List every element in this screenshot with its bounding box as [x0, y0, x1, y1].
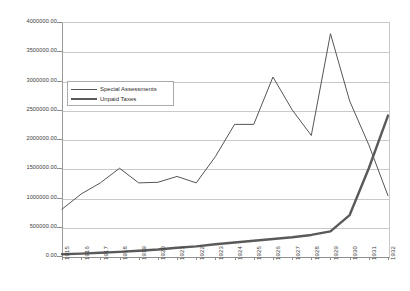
x-axis-tick-label: 1925 [256, 246, 262, 260]
x-axis-tick [292, 257, 293, 260]
series-line-unpaid-taxes [62, 116, 388, 255]
x-axis-tick [369, 257, 370, 260]
y-axis-tick-label: 4000000.00 [1, 19, 57, 25]
y-axis-tick-label: 2500000.00 [1, 107, 57, 113]
y-axis-tick [57, 51, 62, 52]
x-axis-tick-label: 1924 [237, 246, 243, 260]
y-axis-tick-label: 500000.00 [1, 224, 57, 230]
x-axis-tick-label: 1932 [390, 246, 396, 260]
x-axis-tick-label: 1918 [122, 246, 128, 260]
x-axis-tick-label: 1927 [295, 246, 301, 260]
x-axis-tick-label: 1931 [371, 246, 377, 260]
y-axis-tick [57, 227, 62, 228]
y-axis-tick-label: 3000000.00 [1, 78, 57, 84]
x-axis-tick-label: 1919 [141, 246, 147, 260]
y-axis-tick [57, 81, 62, 82]
series-line-special-assessments [62, 34, 388, 210]
y-axis-tick-label: 1000000.00 [1, 195, 57, 201]
x-axis-tick-label: 1921 [179, 246, 185, 260]
x-axis-tick [100, 257, 101, 260]
x-axis-tick [388, 257, 389, 260]
y-axis-tick [57, 139, 62, 140]
y-axis-tick [57, 22, 62, 23]
x-axis-tick-label: 1916 [84, 246, 90, 260]
x-axis-tick-label: 1930 [352, 246, 358, 260]
y-axis-tick-label: 1500000.00 [1, 165, 57, 171]
x-axis-tick [62, 257, 63, 260]
x-axis-tick [330, 257, 331, 260]
chart-container: Special Assessments Unpaid Taxes 4000000… [0, 0, 410, 291]
y-axis-tick [57, 110, 62, 111]
x-axis-tick [158, 257, 159, 260]
legend-item-special-assessments: Special Assessments [71, 84, 170, 94]
x-axis-tick-label: 1917 [103, 246, 109, 260]
x-axis-tick [254, 257, 255, 260]
y-axis-tick [57, 168, 62, 169]
x-axis-tick-label: 1915 [64, 246, 70, 260]
legend-label-unpaid-taxes: Unpaid Taxes [100, 96, 136, 102]
x-axis-tick [311, 257, 312, 260]
y-axis-tick-label: 3500000.00 [1, 48, 57, 54]
x-axis-tick [215, 257, 216, 260]
series-lines [62, 22, 388, 256]
legend-swatch-special-assessments [71, 89, 97, 90]
chart-legend: Special Assessments Unpaid Taxes [67, 81, 174, 106]
x-axis-tick [273, 257, 274, 260]
x-axis-tick-label: 1926 [275, 246, 281, 260]
x-axis-tick-label: 1920 [160, 246, 166, 260]
x-axis-tick [350, 257, 351, 260]
x-axis-tick [81, 257, 82, 260]
x-axis-tick [177, 257, 178, 260]
x-axis-tick [139, 257, 140, 260]
y-axis-tick-label: 0.00 [1, 253, 57, 259]
x-axis-tick-label: 1923 [218, 246, 224, 260]
x-axis-tick-label: 1922 [199, 246, 205, 260]
legend-label-special-assessments: Special Assessments [100, 86, 157, 92]
legend-item-unpaid-taxes: Unpaid Taxes [71, 94, 170, 104]
legend-swatch-unpaid-taxes [71, 98, 97, 100]
x-axis-tick [120, 257, 121, 260]
x-axis-tick [235, 257, 236, 260]
x-axis-tick-label: 1928 [314, 246, 320, 260]
y-axis-tick-label: 2000000.00 [1, 136, 57, 142]
y-axis-tick [57, 198, 62, 199]
x-axis-tick [196, 257, 197, 260]
x-axis-tick-label: 1929 [333, 246, 339, 260]
